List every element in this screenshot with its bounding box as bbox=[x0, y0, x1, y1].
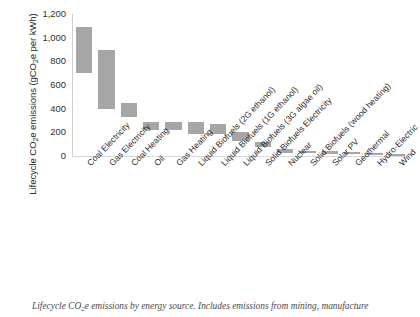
x-tick-label: Wind bbox=[397, 147, 418, 168]
x-tick-label: Oil bbox=[152, 153, 166, 168]
figure-caption: Lifecycle CO2e emissions by energy sourc… bbox=[32, 300, 412, 313]
